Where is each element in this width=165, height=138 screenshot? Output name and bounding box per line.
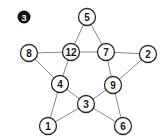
node-label: 4 [57, 79, 63, 90]
node-7: 7 [98, 44, 115, 61]
node-label: 1 [45, 121, 51, 132]
node-label: 3 [83, 99, 89, 110]
node-9: 9 [105, 77, 122, 94]
node-label: 12 [65, 47, 77, 58]
node-label: 8 [26, 48, 32, 59]
node-label: 6 [120, 121, 126, 132]
node-2: 2 [140, 46, 157, 63]
badge-label: 3 [21, 13, 26, 23]
node-3: 3 [78, 96, 95, 113]
node-12: 12 [63, 44, 80, 61]
star-diagram: 3 58127249316 [0, 0, 165, 138]
node-label: 7 [103, 47, 109, 58]
node-5: 5 [79, 9, 96, 26]
node-1: 1 [40, 118, 57, 135]
puzzle-number-badge: 3 [18, 11, 31, 24]
nodes-group: 58127249316 [21, 9, 157, 135]
node-6: 6 [115, 118, 132, 135]
node-4: 4 [52, 76, 69, 93]
node-label: 5 [84, 12, 90, 23]
node-label: 9 [110, 80, 116, 91]
node-label: 2 [145, 49, 151, 60]
node-8: 8 [21, 45, 38, 62]
